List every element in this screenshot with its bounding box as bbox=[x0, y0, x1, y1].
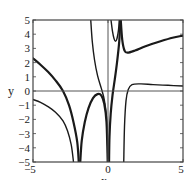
curve-arch-thick bbox=[80, 94, 107, 162]
x-tick-label: −5 bbox=[24, 163, 36, 175]
y-tick-label: 1 bbox=[25, 71, 31, 83]
y-tick-label: −3 bbox=[18, 128, 30, 140]
y-tick-label: 3 bbox=[25, 42, 31, 54]
curve-u-thin bbox=[111, 20, 119, 41]
y-tick-label: −2 bbox=[18, 113, 30, 125]
y-tick-label: −1 bbox=[18, 99, 30, 111]
y-axis-label: y bbox=[8, 84, 14, 98]
y-tick-label: −4 bbox=[18, 142, 30, 154]
x-axis-label: x bbox=[101, 174, 107, 180]
y-tick-label: 4 bbox=[25, 28, 31, 40]
y-tick-label: 2 bbox=[25, 57, 31, 69]
curve-right-lower-thin bbox=[124, 84, 183, 162]
curve-branch-2-thin bbox=[33, 100, 74, 162]
y-tick-label: 0 bbox=[25, 85, 31, 97]
x-tick-label: 5 bbox=[178, 163, 184, 175]
curve-right-upper-thick bbox=[121, 20, 183, 53]
chart: −5−4−3−2−1012345 −505 y x bbox=[0, 0, 186, 180]
y-tick-label: 5 bbox=[25, 14, 31, 26]
